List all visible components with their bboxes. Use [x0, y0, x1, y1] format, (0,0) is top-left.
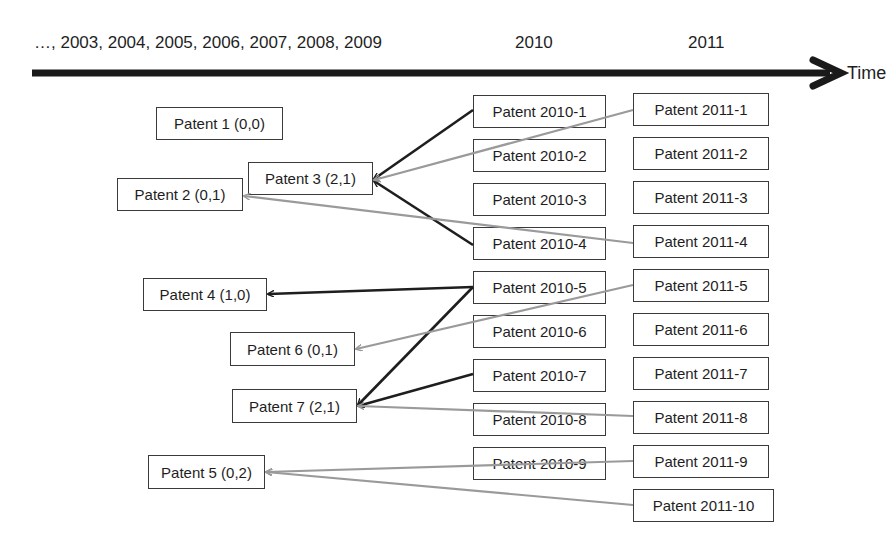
- patent-box-a9: Patent 2010-9: [473, 447, 606, 480]
- patent-box-a8: Patent 2010-8: [473, 403, 606, 436]
- patent-box-p7: Patent 7 (2,1): [232, 389, 357, 423]
- patent-box-a6: Patent 2010-6: [473, 315, 606, 348]
- patent-box-b2: Patent 2011-2: [633, 137, 769, 170]
- citation-arrow-4: [268, 287, 473, 294]
- patent-box-b1: Patent 2011-1: [633, 93, 769, 126]
- patent-box-a2: Patent 2010-2: [473, 139, 606, 172]
- patent-box-b5: Patent 2011-5: [633, 269, 769, 302]
- patent-box-p2: Patent 2 (0,1): [117, 178, 243, 211]
- patent-box-b7: Patent 2011-7: [633, 357, 769, 390]
- patent-box-p4: Patent 4 (1,0): [143, 278, 267, 311]
- patent-box-a7: Patent 2010-7: [473, 359, 606, 392]
- early-years-label: …, 2003, 2004, 2005, 2006, 2007, 2008, 2…: [34, 33, 382, 53]
- patent-box-b4: Patent 2011-4: [633, 225, 769, 258]
- patent-box-b8: Patent 2011-8: [633, 401, 769, 434]
- citation-arrow-7: [358, 374, 473, 406]
- patent-box-a4: Patent 2010-4: [473, 227, 606, 260]
- patent-box-a5: Patent 2010-5: [473, 271, 606, 304]
- patent-box-p6: Patent 6 (0,1): [230, 332, 355, 366]
- time-axis-label: Time: [847, 63, 886, 84]
- patent-box-a3: Patent 2010-3: [473, 183, 606, 216]
- patent-box-a1: Patent 2010-1: [473, 95, 606, 128]
- year-2010-label: 2010: [515, 33, 553, 53]
- citation-arrow-1: [374, 181, 473, 245]
- patent-box-p5: Patent 5 (0,2): [148, 455, 265, 489]
- patent-box-b6: Patent 2011-6: [633, 313, 769, 346]
- year-2011-label: 2011: [688, 33, 725, 53]
- patent-box-p1: Patent 1 (0,0): [156, 107, 283, 140]
- citation-arrow-5: [358, 287, 473, 405]
- patent-box-b10: Patent 2011-10: [633, 489, 774, 522]
- patent-box-b9: Patent 2011-9: [633, 445, 769, 478]
- patent-box-b3: Patent 2011-3: [633, 181, 769, 214]
- citation-arrow-0: [374, 110, 473, 179]
- patent-box-p3: Patent 3 (2,1): [248, 162, 373, 195]
